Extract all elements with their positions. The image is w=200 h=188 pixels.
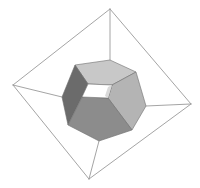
connector-left bbox=[13, 85, 62, 97]
polyhedron bbox=[62, 60, 146, 141]
polyhedron-diagram bbox=[0, 0, 200, 188]
connector-right bbox=[146, 104, 191, 106]
diagram-svg bbox=[0, 0, 200, 188]
